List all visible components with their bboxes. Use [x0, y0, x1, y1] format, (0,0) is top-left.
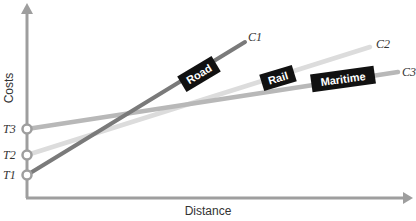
t3-label: T3 — [3, 122, 16, 136]
maritime-label-box: Maritime — [310, 66, 376, 93]
c1-label: C1 — [248, 30, 262, 44]
x-axis-title: Distance — [185, 204, 232, 218]
t1-label: T1 — [3, 168, 16, 182]
c3-label: C3 — [402, 65, 416, 79]
t2-label: T2 — [3, 148, 16, 162]
t2-marker — [23, 151, 32, 160]
t3-marker — [23, 125, 32, 134]
y-axis-arrow-icon — [21, 3, 33, 14]
y-axis-title: Costs — [2, 73, 16, 104]
road-label-box: Road — [177, 56, 221, 92]
c2-label: C2 — [376, 37, 390, 51]
cost-distance-diagram: T3 T2 T1 C1 C2 C3 Road Rail Maritime Cos… — [0, 0, 416, 221]
t1-marker — [23, 171, 32, 180]
x-axis-arrow-icon — [403, 192, 413, 204]
